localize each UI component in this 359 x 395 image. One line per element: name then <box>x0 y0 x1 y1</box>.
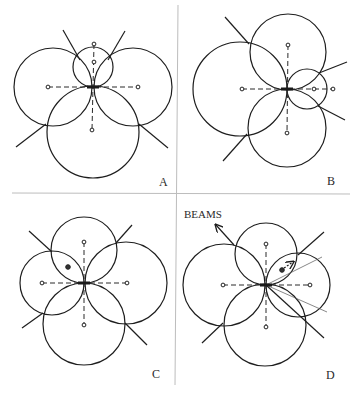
beams-arrow-icon <box>216 225 234 245</box>
focus-point-dot <box>66 265 71 270</box>
beam-line <box>298 232 324 255</box>
focus-point-dot <box>46 85 50 89</box>
panels: ABCBEAMSD <box>14 14 347 382</box>
beam-line <box>125 323 147 345</box>
thin-reference-line <box>266 257 322 285</box>
beam-line <box>29 231 52 252</box>
focus-point-dot <box>280 268 285 273</box>
panel-c: C <box>20 217 167 381</box>
beam-line <box>108 31 125 60</box>
focus-point-dot <box>221 283 225 287</box>
panel-label: A <box>159 175 168 189</box>
motion-arrow-icon <box>284 262 293 268</box>
beams-label: BEAMS <box>184 208 222 220</box>
focus-point-dot <box>125 281 129 285</box>
panel-a: A <box>14 30 172 189</box>
focus-point-dot <box>331 87 335 91</box>
antenna-beam-pattern-diagram: ABCBEAMSD <box>0 0 359 395</box>
beam-line <box>202 323 223 343</box>
focus-point-dot <box>82 323 86 327</box>
center-element <box>260 284 272 287</box>
focus-point-dot <box>90 128 94 132</box>
beam-line <box>116 225 132 243</box>
focus-point-dot <box>285 131 289 135</box>
panel-dividers <box>12 5 350 385</box>
focus-point-dot <box>40 281 44 285</box>
beam-lobe-circle <box>73 47 113 87</box>
panel-label: B <box>327 174 335 188</box>
beam-line <box>16 124 46 147</box>
panel-label: D <box>326 368 335 382</box>
beam-line <box>223 134 247 161</box>
beam-line <box>318 106 345 120</box>
focus-point-dot <box>264 242 268 246</box>
focus-point-dot <box>92 42 96 46</box>
beam-line <box>139 124 168 148</box>
focus-point-dot <box>308 283 312 287</box>
focus-point-dot <box>240 87 244 91</box>
center-element <box>78 282 90 285</box>
panel-label: C <box>152 367 160 381</box>
center-element <box>87 86 99 89</box>
focus-point-dot <box>286 43 290 47</box>
beam-line <box>63 30 80 60</box>
focus-point-dot <box>136 85 140 89</box>
panel-d: BEAMSD <box>183 208 335 382</box>
focus-point-dot <box>92 60 96 64</box>
center-element <box>281 88 293 91</box>
beam-line <box>22 313 43 328</box>
vertical-divider <box>175 5 178 385</box>
beam-line <box>225 17 249 44</box>
focus-point-dot <box>264 325 268 329</box>
horizontal-divider <box>12 193 350 194</box>
focus-point-dot <box>82 240 86 244</box>
panel-b: B <box>193 14 347 188</box>
focus-point-dot <box>312 87 316 91</box>
